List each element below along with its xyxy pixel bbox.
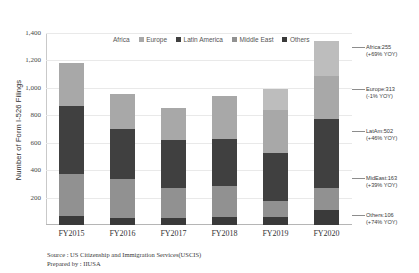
bar-segment	[161, 108, 186, 140]
bar-segment	[314, 41, 339, 76]
bar-segment	[314, 76, 339, 119]
bar-series-container	[46, 33, 352, 225]
bar-segment	[59, 174, 84, 216]
bar-segment	[263, 110, 288, 153]
bar-stack	[110, 94, 135, 225]
callout-africa: Africa:255(+69% YOY)	[366, 44, 397, 58]
callout-label: Africa:255	[366, 44, 397, 51]
y-tick-label: 200	[31, 194, 42, 202]
bar-segment	[212, 96, 237, 139]
bar-stack	[161, 108, 186, 226]
callout-leader-line	[352, 215, 365, 216]
callout-label: Europe:313	[366, 86, 395, 93]
callout-leader-line	[352, 47, 365, 48]
y-tick-label: 1,400	[25, 29, 41, 37]
bar-segment	[110, 129, 135, 179]
callout-leader-line	[352, 178, 365, 179]
y-tick-label: 800	[31, 111, 42, 119]
bar-segment	[263, 201, 288, 217]
callout-yoy: (+46% YOY)	[366, 135, 397, 142]
bar-segment	[212, 139, 237, 186]
callout-leader-line	[352, 89, 365, 90]
bar-segment	[314, 119, 339, 188]
bar-segment	[263, 89, 288, 110]
plot-area: 2004006008001,0001,2001,400 FY2015FY2016…	[46, 33, 352, 225]
chart-root: Number of Form I-526 Filings AfricaEurop…	[0, 0, 419, 273]
callout-yoy: (+74% YOY)	[366, 219, 397, 226]
callout-leader-line	[352, 131, 365, 132]
source-text: Source : US Citizenship and Immigration …	[47, 251, 201, 260]
bar-stack	[314, 41, 339, 225]
bar-segment	[212, 186, 237, 218]
callout-label: Others:106	[366, 212, 397, 219]
bar-segment	[263, 153, 288, 200]
bar-segment	[263, 217, 288, 225]
y-tick-label: 600	[31, 139, 42, 147]
bar-segment	[59, 216, 84, 225]
bar-stack	[263, 89, 288, 225]
bar-stack	[59, 63, 84, 225]
bar-segment	[110, 218, 135, 225]
bar-stack	[212, 96, 237, 225]
bar-segment	[314, 210, 339, 225]
bar-segment	[161, 218, 186, 225]
annotation-callouts: Africa:255(+69% YOY)Europe:313(-1% YOY)L…	[352, 0, 419, 273]
callout-yoy: (+39% YOY)	[366, 182, 397, 189]
callout-label: MidEast:163	[366, 175, 397, 182]
y-tick-label: 1,000	[25, 84, 41, 92]
bar-segment	[161, 188, 186, 217]
source-footer: Source : US Citizenship and Immigration …	[47, 251, 201, 268]
callout-mideast: MidEast:163(+39% YOY)	[366, 175, 397, 189]
bar-segment	[161, 140, 186, 189]
bar-segment	[314, 188, 339, 210]
callout-yoy: (-1% YOY)	[366, 93, 395, 100]
callout-yoy: (+69% YOY)	[366, 51, 397, 58]
y-tick-label: 400	[31, 166, 42, 174]
callout-label: LatAm:502	[366, 128, 397, 135]
bar-segment	[110, 179, 135, 219]
callout-latam: LatAm:502(+46% YOY)	[366, 128, 397, 142]
prepared-by-text: Prepared by : IIUSA	[47, 260, 201, 269]
callout-others: Others:106(+74% YOY)	[366, 212, 397, 226]
bar-segment	[110, 94, 135, 128]
bar-segment	[212, 217, 237, 225]
bar-segment	[59, 63, 84, 106]
y-axis-title: Number of Form I-526 Filings	[14, 60, 26, 200]
y-tick-label: 1,200	[25, 56, 41, 64]
callout-europe: Europe:313(-1% YOY)	[366, 86, 395, 100]
bar-segment	[59, 106, 84, 175]
